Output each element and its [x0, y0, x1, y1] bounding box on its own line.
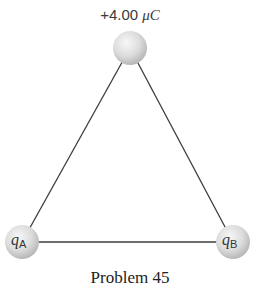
charge-b-symbol: q — [222, 231, 230, 248]
figure-caption: Problem 45 — [0, 268, 260, 283]
side-left — [22, 48, 130, 242]
charge-a-label: qA — [11, 231, 26, 250]
triangle-diagram — [0, 0, 260, 283]
charge-b-subscript: B — [230, 238, 237, 250]
top-charge-unit: μC — [142, 7, 160, 23]
top-charge-label: +4.00 μC — [0, 6, 260, 24]
charge-a-subscript: A — [19, 238, 26, 250]
top-charge-sphere — [113, 31, 147, 65]
charge-b-label: qB — [222, 231, 237, 250]
charge-a-symbol: q — [11, 231, 19, 248]
top-charge-value: +4.00 — [100, 6, 138, 23]
side-right — [130, 48, 233, 242]
